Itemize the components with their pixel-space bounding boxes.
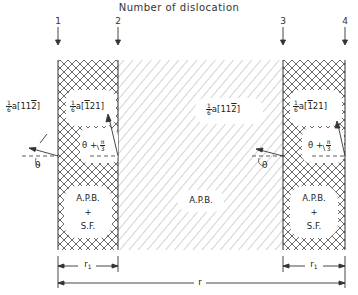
- dislocation-number-4: 4: [339, 16, 351, 26]
- burgers-vector-left-inner: 16a[121]: [70, 100, 104, 113]
- dislocation-number-1: 1: [52, 16, 64, 26]
- angle-theta-plus-pi-3-left: θ + π3: [82, 139, 105, 152]
- dimension-r1-right: r1: [306, 259, 322, 270]
- angle-theta-right: θ: [262, 160, 268, 170]
- angle-theta-left: θ: [35, 160, 41, 170]
- angle-theta-plus-pi-3-right: θ + π3: [308, 139, 331, 152]
- dislocation-number-2: 2: [112, 16, 124, 26]
- diagram-title: Number of dislocation: [0, 2, 358, 13]
- left-region-label: A.P.B. + S.F.: [64, 191, 112, 233]
- diagram-canvas: [0, 0, 358, 295]
- burgers-vector-outer-left: 16a[112]: [6, 100, 40, 113]
- dimension-r-total: r: [194, 277, 206, 287]
- middle-apb-region: [118, 60, 283, 250]
- fraction: π3: [100, 139, 106, 152]
- burgers-vector-middle-right: 16a[112]: [206, 103, 240, 116]
- dislocation-arrows: [56, 27, 348, 45]
- middle-region-label: A.P.B.: [178, 195, 224, 205]
- dimension-r1-left: r1: [80, 259, 96, 270]
- dislocation-number-3: 3: [277, 16, 289, 26]
- fraction: π3: [326, 139, 332, 152]
- right-region-label: A.P.B. + S.F.: [290, 191, 338, 233]
- burgers-vector-right-inner: 16a[121]: [293, 100, 327, 113]
